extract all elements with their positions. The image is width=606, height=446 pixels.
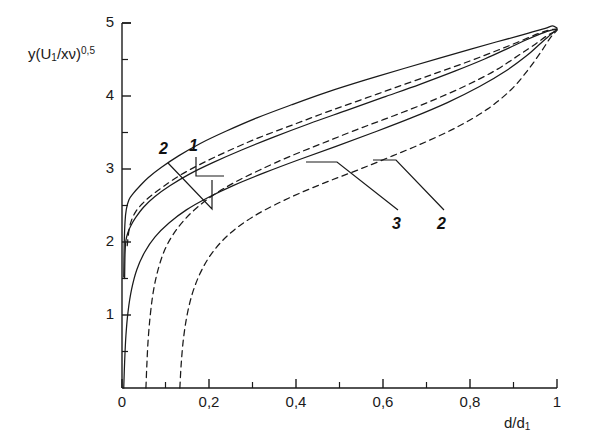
y-tick-label: 3 — [92, 159, 114, 176]
y-tick-label: 4 — [92, 86, 114, 103]
y-tick-label: 5 — [92, 13, 114, 30]
x-tick-label: 0,6 — [358, 393, 408, 410]
x-tick-label: 0,4 — [271, 393, 321, 410]
figure-container: y(U1/xν)0,5 d/d1 00,20,40,60,81 12345 21… — [0, 0, 606, 446]
curve-label-3: 3 — [392, 215, 401, 233]
y-axis-label: y(U1/xν)0,5 — [28, 45, 95, 63]
chart-plot-area — [0, 0, 606, 446]
curve-3-solid-lower — [124, 30, 557, 388]
leader-line-3 — [373, 160, 444, 210]
x-tick-label: 0,8 — [445, 393, 495, 410]
y-tick-label: 1 — [92, 305, 114, 322]
curve-label-2: 2 — [437, 215, 446, 233]
axis-lines — [122, 23, 557, 388]
x-axis-label: d/d1 — [504, 414, 530, 432]
x-tick-label: 0 — [97, 393, 147, 410]
curve-2-dashed-lower — [180, 30, 557, 388]
x-tick-label: 0,2 — [184, 393, 234, 410]
y-tick-label: 2 — [92, 232, 114, 249]
leader-line-2 — [306, 162, 398, 210]
x-tick-label: 1 — [532, 393, 582, 410]
tick-marks — [122, 23, 557, 388]
curve-label-1: 1 — [189, 137, 198, 155]
curve-label-2: 2 — [159, 140, 168, 158]
data-series-layer — [124, 26, 557, 388]
leader-line-0 — [168, 163, 212, 209]
